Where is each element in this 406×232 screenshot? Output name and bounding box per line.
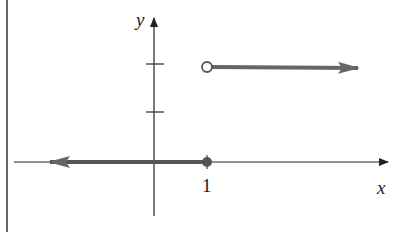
step-function-graph xyxy=(0,0,406,232)
upper-ray xyxy=(212,67,358,68)
closed-endpoint xyxy=(202,157,212,167)
y-axis-label: y xyxy=(136,10,144,29)
x-tick-label-1: 1 xyxy=(202,176,212,195)
x-axis-label: x xyxy=(377,178,385,197)
open-endpoint xyxy=(202,62,212,72)
